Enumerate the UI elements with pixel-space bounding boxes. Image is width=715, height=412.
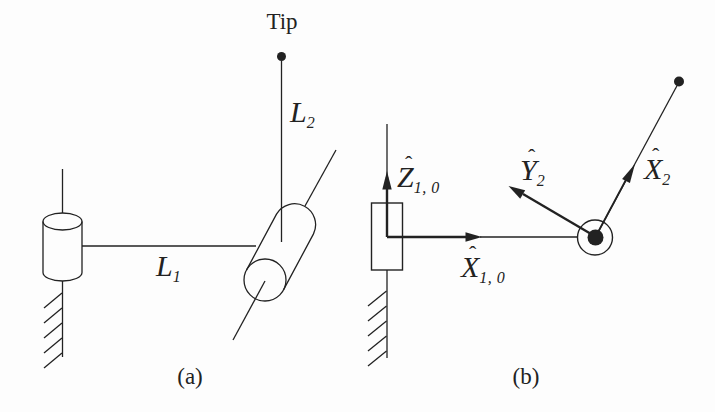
tip-dot xyxy=(277,52,286,61)
hatch-stroke xyxy=(368,306,387,321)
x10-axis-subscript: 1, 0 xyxy=(479,269,505,286)
hatch-stroke xyxy=(44,353,62,368)
panel-a-caption: (a) xyxy=(166,365,214,388)
x2-axis-arrow-shaft xyxy=(596,176,628,236)
joint2-axis-upper-line xyxy=(305,150,336,206)
z10-axis-arrowhead xyxy=(382,171,391,190)
joint2-axis-lower-line xyxy=(233,281,265,340)
ground-hatching-b xyxy=(368,291,387,366)
y2-axis-arrowhead xyxy=(509,186,526,199)
link1-length-symbol: L xyxy=(156,249,173,282)
link1-length-subscript: 1 xyxy=(173,268,182,285)
y2-axis-arrow-shaft xyxy=(523,194,595,236)
panel-b-frames xyxy=(368,77,684,367)
x2-axis-subscript: 2 xyxy=(662,171,671,188)
joint2-cylinder-end-face xyxy=(244,259,286,301)
hat-accent: ˆ xyxy=(405,153,412,175)
hat-accent: ˆ xyxy=(469,243,476,265)
hatch-stroke xyxy=(368,336,387,351)
tip-label: Tip xyxy=(260,10,304,33)
manipulator-figure: Tip L2 L1 ˆZ1, 0 ˆX1, 0 ˆY2 ˆX2 (a) (b) xyxy=(0,0,715,412)
hatch-stroke xyxy=(44,338,62,353)
link2-length-subscript: 2 xyxy=(307,114,316,131)
hatch-stroke xyxy=(368,321,387,336)
z10-axis-label: ˆZ1, 0 xyxy=(397,162,440,192)
figure-line-art xyxy=(0,0,715,412)
x2-axis-arrowhead xyxy=(622,164,635,183)
link2-length-symbol: L xyxy=(290,95,307,128)
joint2-axis-dot xyxy=(588,230,604,246)
y2-axis-subscript: 2 xyxy=(537,172,546,189)
y2-axis-label: ˆY2 xyxy=(520,155,545,185)
z10-axis-subscript: 1, 0 xyxy=(414,179,440,196)
hatch-stroke xyxy=(44,323,62,338)
link2-length-label: L2 xyxy=(290,97,315,127)
hatch-stroke xyxy=(44,293,62,308)
hatch-stroke xyxy=(44,308,62,323)
hatch-stroke xyxy=(368,291,387,306)
link1-length-label: L1 xyxy=(156,251,181,281)
x10-axis-label: ˆX1, 0 xyxy=(461,252,505,282)
joint1-cylinder-top xyxy=(43,213,82,230)
hat-accent: ˆ xyxy=(528,146,535,168)
panel-b-caption: (b) xyxy=(502,365,550,388)
tip-dot-b xyxy=(674,77,684,87)
hat-accent: ˆ xyxy=(652,145,659,167)
ground-hatching-a xyxy=(44,293,62,368)
x2-axis-label: ˆX2 xyxy=(644,154,671,184)
hatch-stroke xyxy=(368,351,387,366)
